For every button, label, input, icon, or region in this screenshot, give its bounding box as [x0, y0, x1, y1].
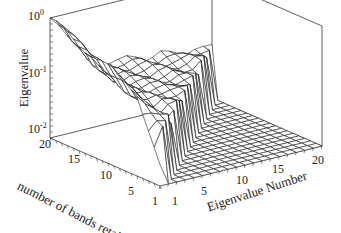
- y-tick-15: 15: [68, 152, 80, 167]
- x-tick-20: 20: [312, 153, 324, 168]
- y-tick-10: 10: [100, 168, 112, 183]
- z-tick-base: 10: [28, 9, 40, 23]
- z-tick-1e-2: 10-2: [28, 121, 47, 137]
- z-tick-1e0: 100: [28, 8, 44, 24]
- z-tick-exp: -2: [40, 121, 47, 130]
- x-tick-1: 1: [172, 194, 178, 209]
- z-tick-base: 10: [28, 122, 40, 136]
- x-tick-5: 5: [201, 184, 207, 199]
- z-tick-exp: -1: [40, 65, 47, 74]
- z-tick-exp: 0: [40, 8, 44, 17]
- y-tick-1: 1: [152, 194, 158, 209]
- z-axis-title: Eigenvalue: [16, 38, 32, 118]
- y-tick-20: 20: [39, 137, 51, 152]
- wireframe-surface: [50, 18, 322, 184]
- y-tick-5: 5: [128, 184, 134, 199]
